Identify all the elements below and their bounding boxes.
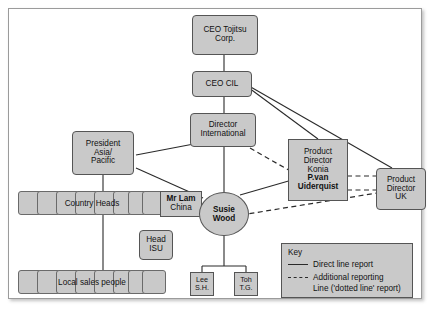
node-mr-lam-line-2: China xyxy=(170,204,191,213)
solid-line-icon xyxy=(288,264,308,265)
node-product-director-konia[interactable]: Product Director Konia P.van Uiderquist xyxy=(288,139,348,201)
node-ceo-cil-line-1: CEO CIL xyxy=(206,80,239,89)
stack-local-sales-people[interactable]: Local sales people xyxy=(18,270,166,294)
org-chart-diagram: CEO Tojitsu Corp. CEO CIL Director Inter… xyxy=(0,0,440,319)
node-head-isu[interactable]: Head ISU xyxy=(139,230,173,260)
node-susie-wood-line-2: Wood xyxy=(213,214,236,223)
node-uk-line-3: UK xyxy=(395,193,406,202)
legend-item-direct-line-text: Direct line report xyxy=(313,260,373,270)
node-toh-tg-line-2: T.G. xyxy=(239,284,252,292)
legend-additional-line-2: Line ('dotted line' report) xyxy=(313,284,401,294)
node-toh-tg[interactable]: Toh T.G. xyxy=(234,272,258,296)
node-susie-wood-line-1: Susie xyxy=(213,205,235,214)
node-ceo-tojitsu-line-2: Corp. xyxy=(215,35,235,44)
node-mr-lam-china[interactable]: Mr Lam China xyxy=(160,191,202,217)
legend-additional-line-1: Additional reporting xyxy=(313,273,401,283)
node-lee-sh[interactable]: Lee S.H. xyxy=(190,272,214,296)
node-product-director-uk[interactable]: Product Director UK xyxy=(376,168,426,210)
node-konia-line-5: Uiderquist xyxy=(298,183,339,192)
node-ceo-tojitsu[interactable]: CEO Tojitsu Corp. xyxy=(192,15,258,55)
node-lee-sh-line-2: S.H. xyxy=(195,284,209,292)
node-president-line-3: Pacific xyxy=(91,157,115,166)
legend-title: Key xyxy=(288,248,406,257)
legend: Key Direct line report Additional report… xyxy=(281,243,413,298)
node-susie-wood[interactable]: Susie Wood xyxy=(199,192,249,236)
legend-direct-line-label: Direct line report xyxy=(313,260,373,270)
node-ceo-cil[interactable]: CEO CIL xyxy=(192,71,252,97)
node-director-international-line-2: International xyxy=(200,130,245,139)
legend-item-additional-reporting-text: Additional reporting Line ('dotted line'… xyxy=(313,273,401,294)
legend-item-direct-line: Direct line report xyxy=(288,260,406,270)
node-director-international[interactable]: Director International xyxy=(190,113,256,147)
dashed-line-icon xyxy=(288,277,308,278)
legend-item-additional-reporting: Additional reporting Line ('dotted line'… xyxy=(288,273,406,294)
node-president-asia-pacific[interactable]: President Asia/ Pacific xyxy=(72,131,134,175)
stack-country-heads-label: Country Heads xyxy=(18,191,166,215)
node-head-isu-line-2: ISU xyxy=(149,245,163,254)
stack-local-sales-label: Local sales people xyxy=(18,270,166,294)
stack-country-heads[interactable]: Country Heads xyxy=(18,191,166,215)
